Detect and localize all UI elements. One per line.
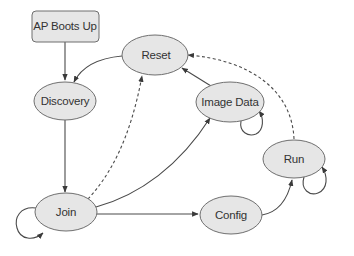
edge-join-to-reset (88, 76, 142, 199)
label-config: Config (215, 209, 247, 221)
label-run: Run (284, 153, 305, 165)
edge-config-to-run (262, 180, 292, 215)
edge-join-to-imagedata (96, 118, 210, 207)
edge-imagedata-to-reset (182, 68, 211, 86)
label-image-data: Image Data (201, 96, 258, 108)
label-discovery: Discovery (41, 95, 90, 107)
label-ap-boots-up: AP Boots Up (33, 20, 96, 32)
state-diagram (0, 0, 354, 256)
edge-reset-to-discovery (74, 56, 122, 82)
label-reset: Reset (141, 49, 170, 61)
label-join: Join (56, 206, 76, 218)
